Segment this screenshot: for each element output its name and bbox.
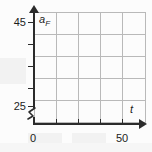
gridline-horizontal: [34, 100, 146, 101]
gridline-vertical: [122, 12, 123, 124]
gridline-vertical: [145, 12, 146, 124]
y-axis-tick: [28, 22, 34, 23]
x-axis-arrowhead: [139, 119, 147, 129]
gridline-vertical: [78, 12, 79, 124]
y-axis-line: [33, 12, 35, 108]
gridline-horizontal: [34, 78, 146, 79]
y-axis-tick-label-25: 25: [0, 101, 26, 112]
chart-figure: 45 25 50 0 aF t: [0, 0, 152, 152]
paper-blotch: [0, 58, 26, 84]
y-axis-title-subscript: F: [45, 19, 50, 28]
gridline-horizontal: [34, 56, 146, 57]
x-axis-title: t: [130, 104, 133, 115]
paper-blotch: [72, 133, 106, 149]
x-axis-tick-label-50: 50: [108, 133, 136, 144]
gridline-vertical: [100, 12, 101, 124]
gridline-horizontal: [34, 12, 146, 13]
x-axis-line: [34, 123, 140, 125]
y-axis-tick: [28, 106, 34, 107]
y-axis-tick-label-45: 45: [0, 17, 26, 28]
y-axis-tick: [28, 88, 34, 89]
origin-label: 0: [22, 133, 44, 144]
axis-break-icon: [26, 105, 42, 121]
gridline-vertical: [56, 12, 57, 124]
gridline-horizontal: [34, 34, 146, 35]
y-axis-title: aF: [39, 14, 50, 29]
y-axis-arrowhead: [29, 5, 39, 13]
y-axis-tick: [28, 66, 34, 67]
y-axis-tick: [28, 44, 34, 45]
paper-blotch: [0, 143, 152, 152]
